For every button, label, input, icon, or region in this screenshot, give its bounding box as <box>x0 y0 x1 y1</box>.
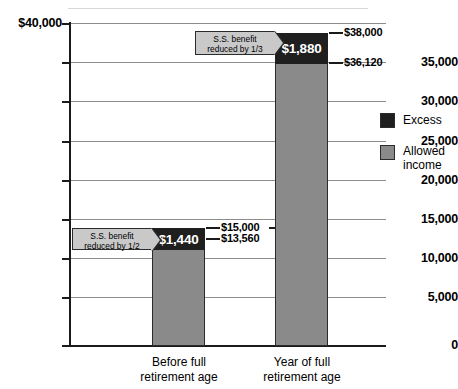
bar-allowed-before-full-retirement-age <box>152 239 205 346</box>
leader-line-38000 <box>329 32 343 34</box>
legend-label-allowed-income: Allowed income <box>403 144 445 172</box>
y-tick-label-30000: 30,000 <box>398 95 458 108</box>
annotation-allowed-36120: $36,120 <box>344 57 382 68</box>
legend-label-excess-text: Excess <box>403 113 442 127</box>
annotation-allowed-13560: $13,560 <box>221 233 259 244</box>
y-tick-label-0: 0 <box>398 339 458 352</box>
x-category-line-1: Before full <box>118 355 240 370</box>
legend-label-allowed-line-1: Allowed <box>403 144 445 158</box>
y-tick-mark-20000 <box>62 180 71 182</box>
y-tick-label-5000: 5,000 <box>398 291 458 304</box>
leader-line-36120 <box>329 62 343 64</box>
gridline-25000 <box>71 141 386 142</box>
y-tick-label-10000: 10,000 <box>398 252 458 265</box>
x-category-line-1: Year of full <box>241 355 363 370</box>
callout-line-2: reduced by 1/2 <box>73 241 151 251</box>
y-tick-label-15000: 15,000 <box>398 213 458 226</box>
legend-swatch-allowed-income <box>380 145 395 160</box>
gridline-40000 <box>71 23 386 24</box>
leader-line-15000 <box>206 227 220 229</box>
y-tick-mark-5000 <box>62 297 71 299</box>
gridline-20000 <box>71 180 386 181</box>
top-divider-rule <box>68 8 368 9</box>
callout-before-full-retirement-age: S.S. benefit reduced by 1/2 <box>72 228 152 250</box>
x-axis-line <box>69 345 386 347</box>
y-tick-label-40000: $40,000 <box>0 17 62 30</box>
annotation-total-38000: $38,000 <box>344 27 382 38</box>
callout-line-1: S.S. benefit <box>73 231 151 241</box>
gridline-10000 <box>71 258 386 259</box>
gridline-15000 <box>71 219 386 220</box>
legend-label-allowed-line-2: income <box>403 158 445 172</box>
y-tick-mark-30000 <box>62 101 71 103</box>
callout-line-2: reduced by 1/3 <box>196 44 274 54</box>
y-tick-mark-0 <box>62 345 71 347</box>
leader-line-13560 <box>206 238 220 240</box>
y-tick-mark-25000 <box>62 141 71 143</box>
x-category-line-2: retirement age <box>241 370 363 385</box>
gridline-5000 <box>71 297 386 298</box>
bar-allowed-year-of-full-retirement-age <box>275 63 328 346</box>
x-category-label-year-of-full-retirement-age: Year of full retirement age <box>241 355 363 385</box>
x-category-line-2: retirement age <box>118 370 240 385</box>
callout-line-1: S.S. benefit <box>196 34 274 44</box>
callout-year-of-full-retirement-age: S.S. benefit reduced by 1/3 <box>195 31 275 55</box>
y-tick-mark-10000 <box>62 258 71 260</box>
y-tick-label-35000: 35,000 <box>398 56 458 69</box>
y-tick-mark-40000 <box>62 23 71 25</box>
legend-label-excess: Excess <box>403 113 442 127</box>
y-tick-mark-35000 <box>62 62 71 64</box>
x-category-label-before-full-retirement-age: Before full retirement age <box>118 355 240 385</box>
y-tick-label-20000: 20,000 <box>398 174 458 187</box>
legend-swatch-excess <box>380 113 395 128</box>
bar-chart: $40,000 35,000 30,000 25,000 20,000 15,0… <box>0 0 458 389</box>
y-tick-mark-15000 <box>62 219 71 221</box>
gridline-30000 <box>71 101 386 102</box>
